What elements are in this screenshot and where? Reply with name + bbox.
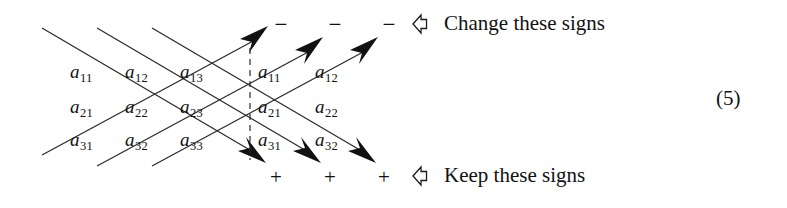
matrix-cell-r1c4-copy: a11 <box>258 62 280 85</box>
matrix-cell-r2c2: a22 <box>125 97 148 120</box>
annotation-change-signs: Change these signs <box>444 13 605 34</box>
equation-number: (5) <box>716 88 741 109</box>
matrix-cell-r1c2: a12 <box>125 62 148 85</box>
matrix-cell-r1c5-copy: a12 <box>315 62 338 85</box>
sign-minus-1: − <box>271 13 291 36</box>
hollow-left-arrow-icon-2 <box>412 163 428 189</box>
sign-minus-3: − <box>379 13 399 36</box>
minus-arrowhead-1 <box>240 26 268 53</box>
sign-plus-2: + <box>320 167 340 188</box>
sign-plus-3: + <box>374 167 394 188</box>
plus-arrowhead-3 <box>348 137 376 163</box>
minus-arrowheads <box>240 26 378 64</box>
matrix-cell-r2c4-copy: a21 <box>258 97 281 120</box>
matrix-cell-r2c3: a23 <box>180 97 203 120</box>
matrix-cell-r3c1: a31 <box>70 130 93 153</box>
matrix-cell-r2c1: a21 <box>70 97 93 120</box>
figure-canvas: a11 a12 a13 a11 a12 a21 a22 a23 a21 a22 … <box>0 0 787 208</box>
hollow-left-arrow-icon <box>412 11 428 37</box>
matrix-cell-r1c1: a11 <box>70 62 92 85</box>
matrix-cell-r2c5-copy: a22 <box>315 97 338 120</box>
minus-arrowhead-3 <box>350 37 378 64</box>
annotation-keep-signs: Keep these signs <box>444 165 585 186</box>
matrix-cell-r3c5-copy: a32 <box>315 130 338 153</box>
matrix-cell-r3c4-copy: a31 <box>258 130 281 153</box>
matrix-cell-r1c3: a13 <box>180 62 203 85</box>
sign-minus-2: − <box>325 13 345 36</box>
matrix-cell-r3c3: a33 <box>180 130 203 153</box>
sign-plus-1: + <box>266 167 286 188</box>
matrix-cell-r3c2: a32 <box>125 130 148 153</box>
minus-arrowhead-2 <box>295 37 323 64</box>
